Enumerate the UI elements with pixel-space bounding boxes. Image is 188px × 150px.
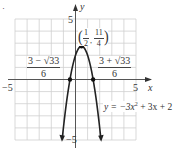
left-root-numerator: 3 − √33: [27, 56, 60, 68]
x-tick-min: −5: [2, 83, 13, 93]
data-point-right-x-intercept: [91, 77, 95, 81]
y-axis-arrow-icon: [73, 4, 78, 11]
right-root-denominator: 6: [98, 68, 131, 79]
x-axis-label: x: [148, 83, 152, 93]
curve-arrow-left-icon: [59, 135, 65, 142]
data-point-left-x-intercept: [68, 77, 72, 81]
equation-label: y = −3x2 + 3x + 2: [103, 101, 173, 112]
curve-arrow-right-icon: [98, 135, 104, 142]
vertex-y-den: 4: [94, 39, 104, 48]
left-root-denominator: 6: [27, 68, 60, 79]
vertex-comma: ,: [90, 37, 92, 45]
left-root-label: 3 − √33 6: [27, 56, 60, 79]
item-marker: ·: [2, 3, 5, 13]
vertex-x-den: 2: [83, 39, 89, 48]
right-root-numerator: 3 + √33: [98, 56, 131, 68]
vertex-y-num: 11: [94, 29, 104, 39]
x-tick-max: 5: [133, 83, 138, 93]
y-tick-max: 5: [68, 15, 73, 25]
vertex-y-fraction: 11 4: [94, 29, 104, 48]
y-tick-min: −5: [66, 135, 77, 145]
vertex-x-num: 1: [83, 29, 89, 39]
vertex-x-fraction: 1 2: [83, 29, 89, 48]
vertex-close-paren: ): [104, 29, 109, 46]
right-root-label: 3 + √33 6: [98, 56, 131, 79]
equation-rhs: + 3x + 2: [138, 102, 172, 112]
y-axis-label: y: [80, 2, 84, 12]
equation-lhs: y = −3x: [104, 102, 135, 112]
vertex-label: ( 1 2 , 11 4 ): [78, 28, 108, 46]
vertex-open-paren: (: [78, 29, 83, 46]
